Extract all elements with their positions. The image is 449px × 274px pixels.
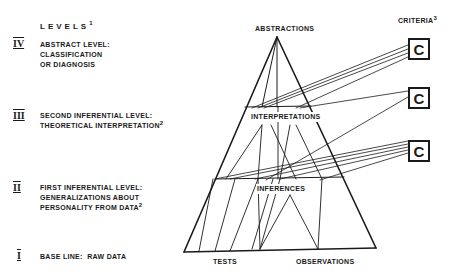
- levels-title-text: LEVELS: [40, 22, 89, 31]
- level-iv-line: ABSTRACT LEVEL:: [40, 40, 110, 50]
- criterion-box-1: C: [408, 38, 430, 60]
- level-ii-line: FIRST INFERENTIAL LEVEL:: [40, 183, 143, 193]
- abstractions-label: ABSTRACTIONS: [255, 24, 314, 34]
- level-iii-line-text: THEORETICAL INTERPRETATION: [40, 122, 160, 129]
- level-iv-numeral: IV: [13, 38, 24, 49]
- level-ii-line: GENERALIZATIONS ABOUT: [40, 193, 143, 203]
- level-i-line: BASE LINE: RAW DATA: [40, 252, 126, 262]
- levels-title-footnote: 1: [89, 20, 95, 26]
- pyramid-right-edge: [277, 37, 376, 248]
- level-i-numeral: I: [17, 250, 21, 261]
- level-iii-line: SECOND INFERENTIAL LEVEL:: [40, 111, 163, 121]
- level-ii-numeral: II: [13, 182, 21, 193]
- level-iii-footnote: 2: [160, 120, 164, 126]
- level-i-description: BASE LINE: RAW DATA: [40, 252, 126, 262]
- criteria-footnote: 3: [433, 15, 437, 21]
- level-ii-footnote: 2: [139, 202, 143, 208]
- levels-title: LEVELS1: [40, 22, 95, 32]
- interpretations-label: INTERPRETATIONS: [250, 112, 322, 122]
- level-iv-line: CLASSIFICATION: [40, 50, 110, 60]
- observations-label: OBSERVATIONS: [296, 257, 354, 267]
- level-iv-description: ABSTRACT LEVEL: CLASSIFICATION OR DIAGNO…: [40, 40, 110, 70]
- level-iii-line: THEORETICAL INTERPRETATION2: [40, 121, 163, 131]
- level-ii-line: PERSONALITY FROM DATA2: [40, 203, 143, 213]
- criteria-title: CRITERIA3: [398, 16, 437, 26]
- criterion-box-3: C: [408, 140, 430, 162]
- level-iii-description: SECOND INFERENTIAL LEVEL: THEORETICAL IN…: [40, 111, 163, 131]
- pyramid-base: [184, 248, 376, 252]
- level-iv-line: OR DIAGNOSIS: [40, 60, 110, 70]
- level-ii-description: FIRST INFERENTIAL LEVEL: GENERALIZATIONS…: [40, 183, 143, 213]
- level-iii-numeral: III: [13, 110, 25, 121]
- criterion-box-2: C: [408, 87, 430, 109]
- tests-label: TESTS: [213, 257, 237, 267]
- criteria-title-text: CRITERIA: [398, 17, 433, 24]
- level-ii-line-text: PERSONALITY FROM DATA: [40, 204, 139, 211]
- inferences-label: INFERENCES: [256, 184, 306, 194]
- pyramid-left-edge: [184, 37, 277, 252]
